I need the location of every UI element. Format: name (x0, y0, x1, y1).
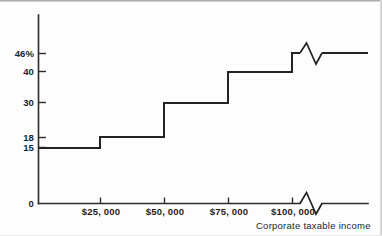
y-tick-label-46: 46% (2, 48, 34, 59)
y-tick-label-0: 0 (2, 198, 34, 209)
step-chart-plot (0, 0, 382, 236)
x-axis-title: Corporate taxable income (256, 220, 371, 231)
chart-figure: 46% 40 30 18 15 0 $25, 000 $50, 000 $75,… (0, 0, 382, 236)
y-tick-label-15: 15 (2, 142, 34, 153)
y-tick-label-30: 30 (2, 97, 34, 108)
x-tick-label-100k: $100, 000 (249, 206, 337, 217)
series-break-icon (300, 43, 322, 64)
tax-rate-step-line (39, 53, 300, 148)
y-tick-label-40: 40 (2, 66, 34, 77)
